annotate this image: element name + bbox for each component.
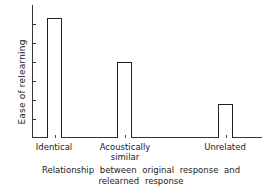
y-tick (32, 43, 36, 44)
category-label-identical: Identical (36, 142, 72, 152)
bar-chart: Ease of relearning Identical Acousticall… (0, 0, 277, 191)
bar-identical (47, 18, 62, 138)
x-axis-title-line: relearned response (42, 176, 240, 187)
y-tick (32, 81, 36, 82)
y-tick (32, 100, 36, 101)
category-line: Identical (36, 142, 72, 152)
y-tick (32, 119, 36, 120)
category-line: similar (100, 152, 151, 162)
category-line: Acoustically (100, 142, 151, 152)
bar-center-tick (55, 135, 56, 138)
y-axis-label: Ease of relearning (17, 39, 27, 124)
bar-center-tick (226, 135, 227, 138)
category-label-unrelated: Unrelated (204, 142, 246, 152)
x-axis-title-line: Relationship between original response a… (42, 165, 240, 176)
category-line: Unrelated (204, 142, 246, 152)
bar-center-tick (125, 135, 126, 138)
y-tick (32, 62, 36, 63)
bar-unrelated (218, 104, 233, 138)
y-tick (32, 24, 36, 25)
x-axis-title: Relationship between original response a… (42, 165, 240, 186)
bar-acoustically-similar (117, 62, 132, 138)
category-label-acoustically-similar: Acoustically similar (100, 142, 151, 162)
